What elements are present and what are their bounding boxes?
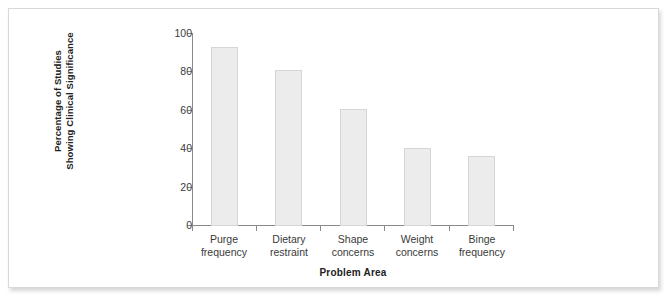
- x-tick-label-line-2: restraint: [252, 246, 326, 259]
- bar-purge-frequency: [211, 47, 238, 226]
- x-tick-label-binge-frequency: Binge frequency: [445, 233, 519, 259]
- y-axis-title: Percentage of Studies Showing Clinical S…: [52, 6, 76, 196]
- y-tick-label-60: 60: [162, 105, 192, 115]
- x-tick-label-line-1: Purge: [210, 233, 238, 245]
- x-tick-label-line-2: frequency: [187, 246, 261, 259]
- y-axis-title-line-1: Percentage of Studies: [52, 50, 63, 152]
- y-tick-label-80-wrap: 80: [149, 66, 192, 76]
- y-axis-line: [192, 33, 193, 225]
- x-tick-label-line-1: Weight: [401, 233, 434, 245]
- y-tick-label-100: 100: [162, 28, 192, 38]
- bar-binge-frequency: [468, 156, 495, 226]
- y-tick-label-20: 20: [162, 182, 192, 192]
- x-tick-mark-0: [192, 226, 193, 231]
- x-tick-label-line-2: concerns: [380, 246, 454, 259]
- y-tick-label-60-wrap: 60: [149, 105, 192, 115]
- y-tick-label-80: 80: [162, 66, 192, 76]
- x-axis-title: Problem Area: [192, 267, 514, 278]
- y-tick-label-20-wrap: 20: [149, 182, 192, 192]
- x-tick-mark-2: [320, 226, 321, 231]
- y-tick-label-40: 40: [162, 143, 192, 153]
- x-tick-label-line-2: frequency: [445, 246, 519, 259]
- x-tick-label-weight-concerns: Weight concerns: [380, 233, 454, 259]
- bar-chart-plot: Percentage of Studies Showing Clinical S…: [9, 9, 660, 289]
- x-tick-label-purge-frequency: Purge frequency: [187, 233, 261, 259]
- x-tick-label-line-1: Shape: [338, 233, 368, 245]
- bar-weight-concerns: [404, 148, 431, 226]
- x-tick-label-line-2: concerns: [316, 246, 390, 259]
- x-tick-mark-5: [513, 226, 514, 231]
- x-tick-label-line-1: Dietary: [272, 233, 305, 245]
- bar-dietary-restraint: [275, 70, 302, 226]
- x-tick-mark-1: [256, 226, 257, 231]
- bar-shape-concerns: [340, 109, 367, 226]
- x-tick-label-line-1: Binge: [469, 233, 496, 245]
- y-tick-label-0-wrap: 0: [149, 220, 192, 230]
- x-tick-mark-4: [449, 226, 450, 231]
- y-axis-title-line-2: Showing Clinical Significance: [64, 32, 75, 170]
- y-tick-label-0: 0: [162, 220, 192, 230]
- x-tick-label-dietary-restraint: Dietary restraint: [252, 233, 326, 259]
- figure-frame: Percentage of Studies Showing Clinical S…: [8, 8, 659, 288]
- x-tick-label-shape-concerns: Shape concerns: [316, 233, 390, 259]
- y-tick-label-40-wrap: 40: [149, 143, 192, 153]
- x-tick-mark-3: [384, 226, 385, 231]
- y-tick-label-100-wrap: 100: [149, 28, 192, 38]
